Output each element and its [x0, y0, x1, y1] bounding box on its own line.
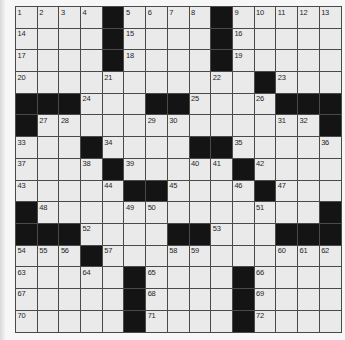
white-cell-r11c7[interactable] [146, 224, 168, 246]
white-cell-r15c15[interactable] [320, 311, 342, 333]
white-cell-r13c2[interactable] [38, 267, 60, 289]
white-cell-r4c6[interactable] [124, 72, 146, 94]
white-cell-r4c9[interactable] [190, 72, 212, 94]
white-cell-r8c9[interactable]: 40 [190, 159, 212, 181]
white-cell-r2c14[interactable] [298, 29, 320, 51]
white-cell-r14c4[interactable] [81, 289, 103, 311]
white-cell-r3c8[interactable] [168, 50, 190, 72]
white-cell-r2c7[interactable] [146, 29, 168, 51]
white-cell-r4c1[interactable]: 20 [16, 72, 38, 94]
white-cell-r1c13[interactable]: 11 [276, 7, 298, 29]
white-cell-r3c6[interactable]: 18 [124, 50, 146, 72]
white-cell-r9c2[interactable] [38, 181, 60, 203]
white-cell-r9c9[interactable] [190, 181, 212, 203]
white-cell-r7c7[interactable] [146, 137, 168, 159]
white-cell-r7c13[interactable] [276, 137, 298, 159]
white-cell-r6c7[interactable]: 29 [146, 115, 168, 137]
white-cell-r15c8[interactable] [168, 311, 190, 333]
white-cell-r4c3[interactable] [59, 72, 81, 94]
white-cell-r3c4[interactable] [81, 50, 103, 72]
white-cell-r6c13[interactable]: 31 [276, 115, 298, 137]
white-cell-r15c14[interactable] [298, 311, 320, 333]
white-cell-r14c10[interactable] [211, 289, 233, 311]
white-cell-r3c3[interactable] [59, 50, 81, 72]
white-cell-r13c5[interactable] [103, 267, 125, 289]
white-cell-r5c4[interactable]: 24 [81, 94, 103, 116]
white-cell-r12c3[interactable]: 56 [59, 246, 81, 268]
white-cell-r13c12[interactable]: 66 [255, 267, 277, 289]
white-cell-r13c7[interactable]: 65 [146, 267, 168, 289]
white-cell-r15c3[interactable] [59, 311, 81, 333]
white-cell-r11c11[interactable] [233, 224, 255, 246]
white-cell-r10c9[interactable] [190, 202, 212, 224]
white-cell-r13c15[interactable] [320, 267, 342, 289]
white-cell-r12c5[interactable]: 57 [103, 246, 125, 268]
white-cell-r4c10[interactable]: 22 [211, 72, 233, 94]
white-cell-r11c4[interactable]: 52 [81, 224, 103, 246]
white-cell-r11c5[interactable] [103, 224, 125, 246]
white-cell-r6c3[interactable]: 28 [59, 115, 81, 137]
white-cell-r4c15[interactable] [320, 72, 342, 94]
white-cell-r2c2[interactable] [38, 29, 60, 51]
white-cell-r9c10[interactable] [211, 181, 233, 203]
white-cell-r1c7[interactable]: 6 [146, 7, 168, 29]
white-cell-r3c13[interactable] [276, 50, 298, 72]
white-cell-r9c5[interactable]: 44 [103, 181, 125, 203]
white-cell-r10c8[interactable] [168, 202, 190, 224]
white-cell-r8c7[interactable] [146, 159, 168, 181]
white-cell-r12c13[interactable]: 60 [276, 246, 298, 268]
white-cell-r12c14[interactable]: 61 [298, 246, 320, 268]
white-cell-r1c2[interactable]: 2 [38, 7, 60, 29]
white-cell-r12c2[interactable]: 55 [38, 246, 60, 268]
white-cell-r4c4[interactable] [81, 72, 103, 94]
white-cell-r6c6[interactable] [124, 115, 146, 137]
white-cell-r10c3[interactable] [59, 202, 81, 224]
white-cell-r14c12[interactable]: 69 [255, 289, 277, 311]
white-cell-r15c1[interactable]: 70 [16, 311, 38, 333]
white-cell-r10c4[interactable] [81, 202, 103, 224]
white-cell-r15c12[interactable]: 72 [255, 311, 277, 333]
white-cell-r6c5[interactable] [103, 115, 125, 137]
white-cell-r10c2[interactable]: 48 [38, 202, 60, 224]
white-cell-r6c4[interactable] [81, 115, 103, 137]
white-cell-r12c10[interactable] [211, 246, 233, 268]
white-cell-r4c7[interactable] [146, 72, 168, 94]
white-cell-r1c3[interactable]: 3 [59, 7, 81, 29]
white-cell-r2c6[interactable]: 15 [124, 29, 146, 51]
white-cell-r7c11[interactable]: 35 [233, 137, 255, 159]
white-cell-r10c10[interactable] [211, 202, 233, 224]
white-cell-r1c4[interactable]: 4 [81, 7, 103, 29]
white-cell-r15c2[interactable] [38, 311, 60, 333]
white-cell-r15c7[interactable]: 71 [146, 311, 168, 333]
white-cell-r10c11[interactable] [233, 202, 255, 224]
white-cell-r6c2[interactable]: 27 [38, 115, 60, 137]
white-cell-r10c12[interactable]: 51 [255, 202, 277, 224]
white-cell-r9c4[interactable] [81, 181, 103, 203]
white-cell-r6c11[interactable] [233, 115, 255, 137]
white-cell-r9c1[interactable]: 43 [16, 181, 38, 203]
white-cell-r5c9[interactable]: 25 [190, 94, 212, 116]
white-cell-r13c14[interactable] [298, 267, 320, 289]
white-cell-r12c15[interactable]: 62 [320, 246, 342, 268]
white-cell-r14c7[interactable]: 68 [146, 289, 168, 311]
white-cell-r12c11[interactable] [233, 246, 255, 268]
white-cell-r13c4[interactable]: 64 [81, 267, 103, 289]
white-cell-r14c8[interactable] [168, 289, 190, 311]
white-cell-r9c11[interactable]: 46 [233, 181, 255, 203]
white-cell-r4c8[interactable] [168, 72, 190, 94]
white-cell-r11c10[interactable]: 53 [211, 224, 233, 246]
white-cell-r14c3[interactable] [59, 289, 81, 311]
white-cell-r14c13[interactable] [276, 289, 298, 311]
white-cell-r4c5[interactable]: 21 [103, 72, 125, 94]
white-cell-r7c1[interactable]: 33 [16, 137, 38, 159]
white-cell-r2c12[interactable] [255, 29, 277, 51]
white-cell-r12c6[interactable] [124, 246, 146, 268]
white-cell-r14c1[interactable]: 67 [16, 289, 38, 311]
white-cell-r9c8[interactable]: 45 [168, 181, 190, 203]
white-cell-r14c15[interactable] [320, 289, 342, 311]
white-cell-r7c12[interactable] [255, 137, 277, 159]
white-cell-r15c4[interactable] [81, 311, 103, 333]
white-cell-r8c2[interactable] [38, 159, 60, 181]
white-cell-r1c15[interactable]: 13 [320, 7, 342, 29]
white-cell-r5c11[interactable] [233, 94, 255, 116]
